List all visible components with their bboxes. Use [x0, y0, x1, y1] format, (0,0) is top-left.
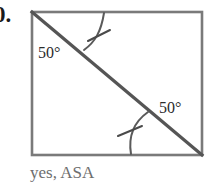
- angle-label-bottom-right: 50°: [159, 99, 181, 117]
- diagonal-line: [32, 12, 202, 155]
- angle-arc-bottom: [130, 112, 148, 154]
- angle-arc-top: [84, 13, 104, 50]
- answer-caption: yes, ASA: [30, 162, 94, 184]
- angle-tick-bottom: [118, 126, 142, 136]
- angle-label-top-left: 50°: [38, 44, 60, 62]
- figure-page: 0. 50° 50° yes, ASA: [0, 0, 208, 188]
- geometry-figure: [0, 0, 208, 188]
